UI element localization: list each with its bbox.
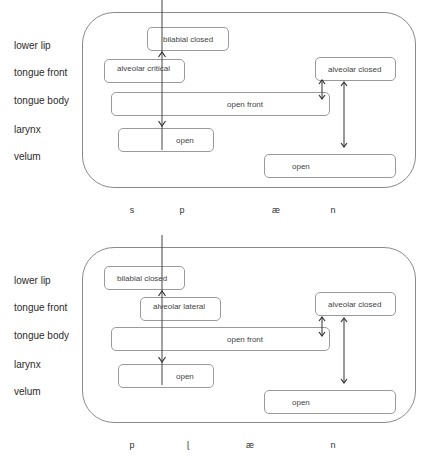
row-label-velum: velum — [14, 151, 41, 162]
phoneme-label: n — [330, 205, 335, 215]
gestural-score-panel-2: lower lip tongue front tongue body laryn… — [0, 235, 426, 466]
row-label-tongue-front: tongue front — [14, 302, 67, 313]
phoneme-label: s — [130, 205, 135, 215]
phoneme-label: n — [330, 440, 335, 450]
gesture-alveolar-critical: alveolar critical — [104, 59, 185, 83]
row-label-tongue-body: tongue body — [14, 95, 69, 106]
gesture-label: alveolar critical — [117, 64, 170, 73]
row-label-lower-lip: lower lip — [14, 275, 51, 286]
row-label-tongue-front: tongue front — [14, 67, 67, 78]
gesture-label: open — [292, 162, 310, 171]
gesture-label: alveolar closed — [328, 300, 381, 309]
gesture-label: bilabial closed — [163, 35, 213, 44]
phoneme-label: æ — [246, 440, 254, 450]
gesture-velum-open: open — [264, 390, 396, 414]
phoneme-label: p — [129, 440, 134, 450]
gesture-larynx-open: open — [118, 364, 214, 388]
gesture-larynx-open: open — [118, 128, 214, 152]
gesture-alveolar-lateral: alveolar lateral — [140, 297, 221, 321]
gesture-bilabial-closed: bilabial closed — [147, 27, 229, 51]
gesture-label: alveolar closed — [328, 65, 381, 74]
gesture-label: open — [176, 136, 194, 145]
gesture-alveolar-closed: alveolar closed — [315, 57, 396, 81]
gesture-alveolar-closed: alveolar closed — [315, 292, 396, 316]
gesture-label: open — [176, 372, 194, 381]
row-label-tongue-body: tongue body — [14, 330, 69, 341]
row-label-velum: velum — [14, 386, 41, 397]
row-label-larynx: larynx — [14, 124, 41, 135]
gesture-bilabial-closed: bilabial closed — [104, 266, 185, 290]
gestural-score-panel-1: lower lip tongue front tongue body laryn… — [0, 0, 426, 235]
gesture-velum-open: open — [264, 154, 396, 178]
phoneme-label: p — [179, 205, 184, 215]
gesture-label: open front — [227, 335, 263, 344]
gesture-open-front: open front — [111, 92, 330, 116]
gesture-label: open front — [227, 100, 263, 109]
gesture-label: alveolar lateral — [153, 302, 205, 311]
phoneme-label: ɭ — [187, 440, 189, 450]
row-label-lower-lip: lower lip — [14, 40, 51, 51]
gesture-label: bilabial closed — [117, 274, 167, 283]
row-label-larynx: larynx — [14, 359, 41, 370]
phoneme-label: æ — [272, 205, 280, 215]
gesture-label: open — [292, 398, 310, 407]
gesture-open-front: open front — [111, 327, 330, 351]
